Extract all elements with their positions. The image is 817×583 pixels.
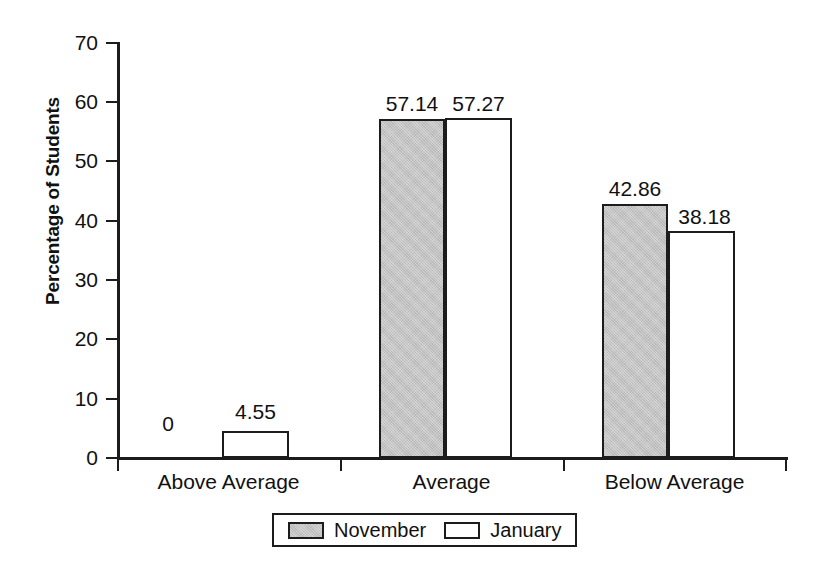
legend-label-november: November xyxy=(334,520,426,540)
chart-legend: November January xyxy=(272,513,577,547)
x-category-label-below-average: Below Average xyxy=(563,470,786,494)
y-tick-mark-40 xyxy=(106,220,117,222)
y-tick-mark-50 xyxy=(106,160,117,162)
legend-item-november[interactable]: November xyxy=(288,520,426,540)
legend-label-january: January xyxy=(490,520,561,540)
y-tick-label-20: 20 xyxy=(52,328,98,349)
bar-label-november-above-average: 0 xyxy=(135,413,201,435)
bar-label-november-below-average: 42.86 xyxy=(602,178,668,200)
x-category-label-average: Average xyxy=(340,470,563,494)
bar-label-january-above-average: 4.55 xyxy=(222,401,289,423)
y-tick-mark-20 xyxy=(106,338,117,340)
bar-january-below-average[interactable] xyxy=(668,231,735,458)
y-axis-tick-labels: 70 60 50 40 30 20 10 0 xyxy=(40,0,98,583)
bar-january-above-average[interactable] xyxy=(222,431,289,458)
x-category-label-above-average: Above Average xyxy=(117,470,340,494)
y-tick-label-10: 10 xyxy=(52,388,98,409)
y-tick-mark-10 xyxy=(106,398,117,400)
y-tick-mark-30 xyxy=(106,279,117,281)
bar-label-january-average: 57.27 xyxy=(445,93,512,115)
y-tick-label-40: 40 xyxy=(52,210,98,231)
y-tick-label-50: 50 xyxy=(52,150,98,171)
y-tick-label-60: 60 xyxy=(52,91,98,112)
bar-november-average[interactable] xyxy=(379,119,445,458)
white-swatch-icon xyxy=(444,522,480,539)
y-tick-label-70: 70 xyxy=(52,32,98,53)
y-tick-mark-0 xyxy=(106,457,117,459)
bar-november-below-average[interactable] xyxy=(602,204,668,458)
legend-item-january[interactable]: January xyxy=(444,520,561,540)
bar-label-november-average: 57.14 xyxy=(379,93,445,115)
bar-january-average[interactable] xyxy=(445,118,512,458)
plot-area: 0 4.55 57.14 57.27 42.86 38.18 xyxy=(117,43,785,458)
y-tick-mark-70 xyxy=(106,42,117,44)
bar-label-january-below-average: 38.18 xyxy=(671,206,738,228)
gray-swatch-icon xyxy=(288,522,324,539)
bar-chart: Percentage of Students 70 60 50 40 30 20… xyxy=(0,0,817,583)
y-tick-label-0: 0 xyxy=(52,447,98,468)
y-tick-mark-60 xyxy=(106,101,117,103)
y-tick-label-30: 30 xyxy=(52,269,98,290)
